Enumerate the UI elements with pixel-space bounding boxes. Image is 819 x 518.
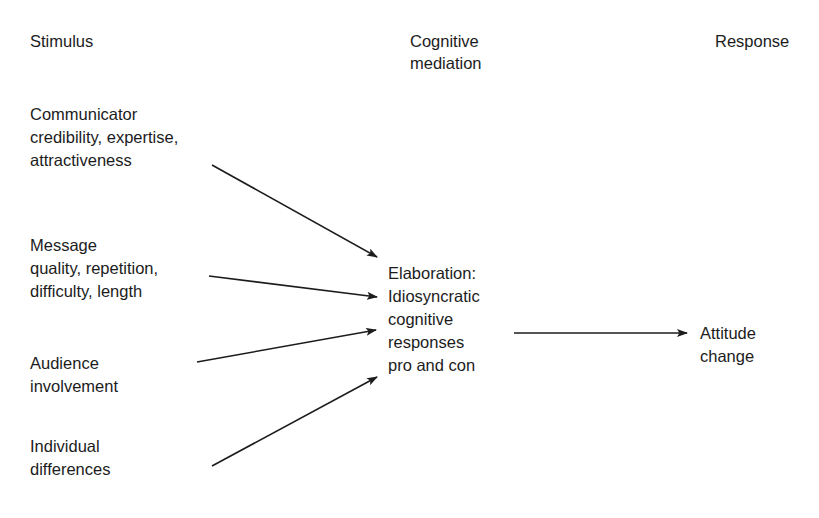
column-header-cognitive-mediation: Cognitive mediation: [410, 30, 482, 74]
node-attitude: Attitude change: [700, 322, 756, 368]
cognitive-response-model-diagram: Stimulus Cognitive mediation Response Co…: [0, 0, 819, 518]
node-audience: Audience involvement: [30, 352, 118, 398]
node-elaboration: Elaboration: Idiosyncratic cognitive res…: [388, 262, 480, 377]
column-header-response: Response: [715, 30, 789, 52]
edge-audience-to-elaboration: [197, 330, 376, 362]
node-communicator: Communicator credibility, expertise, att…: [30, 103, 178, 172]
column-header-stimulus: Stimulus: [30, 30, 93, 52]
node-message: Message quality, repetition, difficulty,…: [30, 234, 158, 303]
node-individual: Individual differences: [30, 435, 110, 481]
edge-message-to-elaboration: [209, 276, 377, 297]
edge-communicator-to-elaboration: [212, 165, 377, 257]
edge-individual-to-elaboration: [212, 377, 377, 466]
